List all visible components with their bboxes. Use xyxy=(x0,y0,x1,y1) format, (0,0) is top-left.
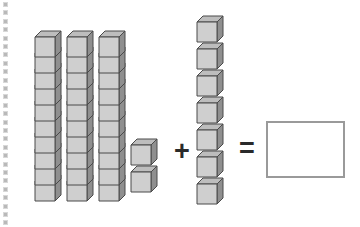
perforation-dot xyxy=(3,78,8,83)
cube-front-face xyxy=(197,76,217,96)
perforation-dot xyxy=(3,2,8,7)
cube-front-face xyxy=(67,37,87,57)
perforation-dot xyxy=(3,44,8,49)
perforation-dot xyxy=(3,145,8,150)
ones-cube-1 xyxy=(131,139,157,163)
perforation-dot xyxy=(3,178,8,183)
perforation-dot xyxy=(3,103,8,108)
tens-rod-2-cube-1 xyxy=(67,31,93,55)
perforation-dot xyxy=(3,19,8,24)
perforation-dot xyxy=(3,212,8,217)
answer-box[interactable] xyxy=(266,121,345,178)
perforation-dot xyxy=(3,10,8,15)
worksheet-canvas: + = xyxy=(0,0,360,227)
perforation-dot xyxy=(3,61,8,66)
perforation-dot xyxy=(3,36,8,41)
addend2-cube-7 xyxy=(197,178,223,202)
perforation-dot xyxy=(3,69,8,74)
addend2-cube-1 xyxy=(197,16,223,40)
perforation-dot xyxy=(3,120,8,125)
perforation-dot xyxy=(3,94,8,99)
cube-front-face xyxy=(197,22,217,42)
cube-front-face xyxy=(197,103,217,123)
addend2-cube-2 xyxy=(197,43,223,67)
perforation-dot xyxy=(3,153,8,158)
cube-front-face xyxy=(131,172,151,192)
perforation-dot xyxy=(3,170,8,175)
equals-operator: = xyxy=(239,135,255,162)
cube-front-face xyxy=(197,184,217,204)
perforation-dot xyxy=(3,204,8,209)
left-edge-perforation xyxy=(3,0,11,227)
addend2-cube-3 xyxy=(197,70,223,94)
cube-front-face xyxy=(197,157,217,177)
cube-front-face xyxy=(197,130,217,150)
ones-cube-2 xyxy=(131,166,157,190)
perforation-dot xyxy=(3,128,8,133)
tens-rod-1-cube-1 xyxy=(35,31,61,55)
perforation-dot xyxy=(3,86,8,91)
plus-operator: + xyxy=(174,138,190,165)
cube-front-face xyxy=(197,49,217,69)
perforation-dot xyxy=(3,136,8,141)
addend2-cube-5 xyxy=(197,124,223,148)
cube-front-face xyxy=(99,37,119,57)
addend2-cube-6 xyxy=(197,151,223,175)
cube-front-face xyxy=(131,145,151,165)
perforation-dot xyxy=(3,220,8,225)
perforation-dot xyxy=(3,162,8,167)
perforation-dot xyxy=(3,111,8,116)
perforation-dot xyxy=(3,52,8,57)
cube-front-face xyxy=(35,37,55,57)
perforation-dot xyxy=(3,187,8,192)
tens-rod-3-cube-1 xyxy=(99,31,125,55)
perforation-dot xyxy=(3,195,8,200)
perforation-dot xyxy=(3,27,8,32)
addend2-cube-4 xyxy=(197,97,223,121)
